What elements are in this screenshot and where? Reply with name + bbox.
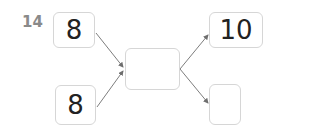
output-box-top: 10 — [209, 12, 263, 48]
arrow-center-to-bottom-right — [180, 69, 208, 103]
input-top-value: 8 — [66, 15, 83, 45]
output-box-bottom[interactable] — [209, 84, 241, 125]
input-bottom-value: 8 — [67, 90, 84, 120]
arrow-center-to-top-right — [180, 35, 208, 69]
arrow-bottom-left-to-center — [97, 71, 123, 107]
middle-answer-box[interactable] — [125, 48, 180, 90]
input-box-bottom: 8 — [55, 85, 96, 125]
arrow-top-left-to-center — [96, 33, 123, 67]
output-top-value: 10 — [219, 15, 252, 45]
input-box-top: 8 — [53, 12, 95, 48]
